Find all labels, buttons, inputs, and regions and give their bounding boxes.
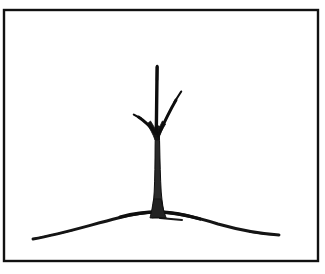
figure-root: Bare sapling tree on a hill — [0, 0, 325, 274]
drawing-background — [0, 0, 325, 274]
line-drawing-canvas — [0, 0, 325, 274]
